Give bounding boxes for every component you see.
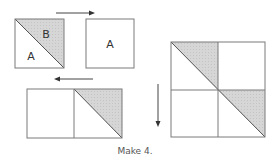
caption: Make 4.	[117, 146, 152, 156]
quilt-block-diagram: B A A Make 4.	[0, 0, 276, 165]
finished-block	[171, 42, 265, 137]
arrow-left-icon	[54, 77, 93, 82]
arrow-down-icon	[156, 84, 161, 127]
row-unit	[27, 89, 122, 138]
label-b: B	[42, 28, 50, 41]
hst-square: B A	[15, 19, 64, 68]
plain-square: A	[86, 19, 134, 68]
arrow-right-icon	[56, 11, 95, 16]
label-a: A	[27, 50, 35, 63]
label-a-plain: A	[106, 38, 114, 51]
